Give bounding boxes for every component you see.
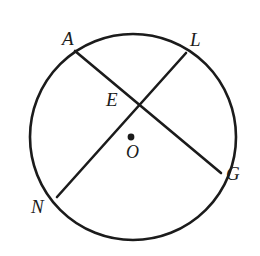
geometry-figure: A L E O G N (0, 0, 260, 256)
point-label-l: L (190, 30, 201, 49)
point-label-a: A (62, 29, 74, 48)
circle-diagram-canvas (0, 0, 260, 256)
point-label-e: E (106, 90, 118, 109)
center-point-dot (128, 134, 135, 141)
point-label-n: N (31, 197, 44, 216)
chord-l-n (57, 53, 186, 197)
point-label-g: G (226, 164, 240, 183)
point-label-o: O (126, 143, 139, 161)
chord-a-g (75, 51, 221, 173)
